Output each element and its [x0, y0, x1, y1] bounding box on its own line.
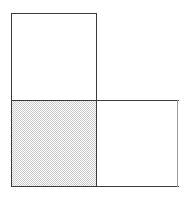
- geometry-figure: [0, 0, 179, 199]
- bottom-right-square: [97, 101, 177, 186]
- left-vertical-edge: [11, 13, 12, 187]
- top-edge-upper-square: [11, 13, 97, 14]
- bottom-horizontal-edge: [11, 186, 179, 187]
- top-left-square: [11, 13, 97, 101]
- middle-vertical-edge: [96, 13, 97, 187]
- bottom-left-square-shaded: [12, 101, 96, 186]
- middle-horizontal-edge: [11, 100, 179, 101]
- right-vertical-edge: [177, 100, 178, 187]
